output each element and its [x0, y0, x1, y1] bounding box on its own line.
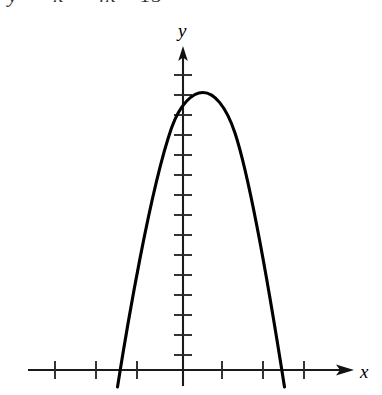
y-axis-label: y	[178, 21, 186, 40]
parabola-curve	[118, 93, 285, 388]
x-axis-label: x	[360, 362, 368, 381]
figure-root: y=−x2+4x+13	[0, 0, 382, 395]
parabola-plot	[0, 0, 382, 395]
x-axis-group	[28, 361, 354, 379]
